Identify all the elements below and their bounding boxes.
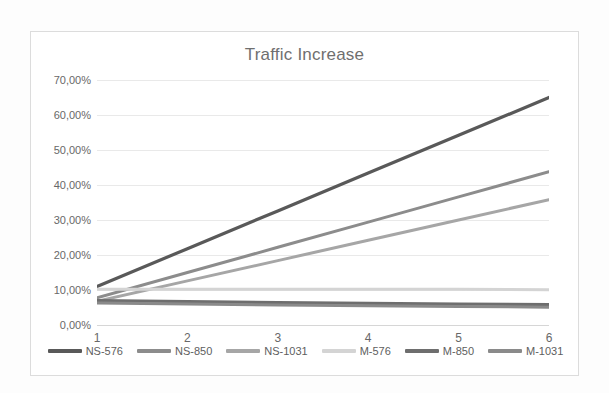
chart-legend: NS-576NS-850NS-1031M-576M-850M-1031: [45, 345, 566, 357]
legend-item-ns-850[interactable]: NS-850: [137, 345, 212, 357]
legend-label: NS-576: [86, 345, 123, 357]
legend-label: NS-1031: [264, 345, 307, 357]
legend-swatch-icon: [405, 349, 439, 353]
legend-label: M-1031: [526, 345, 563, 357]
chart-title: Traffic Increase: [31, 45, 578, 65]
x-axis-tick-label: 4: [365, 331, 372, 345]
legend-swatch-icon: [48, 349, 82, 353]
x-axis-tick-label: 3: [274, 331, 281, 345]
y-axis-tick-label: 50,00%: [54, 144, 91, 156]
y-axis-tick-label: 20,00%: [54, 249, 91, 261]
series-line-ns-1031: [97, 200, 549, 302]
x-axis-line: [97, 325, 549, 326]
x-axis-tick-label: 5: [455, 331, 462, 345]
legend-item-m-576[interactable]: M-576: [322, 345, 391, 357]
legend-item-ns-576[interactable]: NS-576: [48, 345, 123, 357]
plot-area: [97, 80, 549, 325]
chart-container: Traffic Increase 70,00%60,00%50,00%40,00…: [30, 31, 579, 376]
x-axis-tick-label: 6: [546, 331, 553, 345]
legend-swatch-icon: [226, 349, 260, 353]
legend-label: NS-850: [175, 345, 212, 357]
y-axis-tick-label: 10,00%: [54, 284, 91, 296]
legend-item-m-1031[interactable]: M-1031: [488, 345, 563, 357]
y-axis-tick-label: 40,00%: [54, 179, 91, 191]
legend-label: M-850: [443, 345, 474, 357]
legend-item-ns-1031[interactable]: NS-1031: [226, 345, 307, 357]
legend-label: M-576: [360, 345, 391, 357]
x-axis-tick-label: 1: [94, 331, 101, 345]
y-axis-tick-label: 70,00%: [54, 74, 91, 86]
series-lines: [97, 80, 549, 325]
x-axis-tick-label: 2: [184, 331, 191, 345]
legend-swatch-icon: [488, 349, 522, 353]
legend-swatch-icon: [137, 349, 171, 353]
legend-item-m-850[interactable]: M-850: [405, 345, 474, 357]
y-axis-tick-label: 30,00%: [54, 214, 91, 226]
y-axis-tick-label: 60,00%: [54, 109, 91, 121]
y-axis-labels: 70,00%60,00%50,00%40,00%30,00%20,00%10,0…: [37, 80, 95, 325]
legend-swatch-icon: [322, 349, 356, 353]
y-axis-tick-label: 0,00%: [60, 319, 91, 331]
